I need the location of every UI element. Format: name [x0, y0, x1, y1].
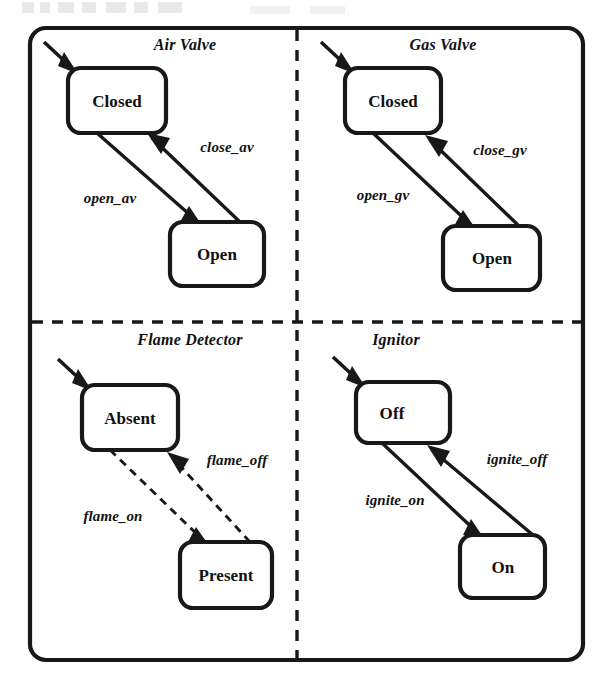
statechart-diagram: Air Valve Closed Open open_av	[0, 0, 615, 683]
state-label-flame-absent: Absent	[104, 409, 156, 428]
event-label-flame-on: flame_on	[83, 508, 142, 524]
state-label-gas-closed: Closed	[368, 92, 418, 111]
region-title-flame-detector: Flame Detector	[136, 331, 243, 348]
event-label-close-gv: close_gv	[473, 142, 527, 158]
event-label-close-av: close_av	[200, 139, 254, 155]
state-label-air-open: Open	[197, 245, 238, 264]
state-label-ignitor-on: On	[492, 558, 515, 577]
event-label-open-gv: open_gv	[357, 187, 410, 203]
region-title-ignitor: Ignitor	[371, 331, 420, 349]
region-title-gas-valve: Gas Valve	[409, 36, 476, 53]
event-label-ignite-on: ignite_on	[365, 492, 424, 508]
event-label-flame-off: flame_off	[207, 452, 270, 468]
event-label-open-av: open_av	[84, 190, 137, 206]
state-label-air-closed: Closed	[92, 92, 142, 111]
state-label-gas-open: Open	[472, 249, 513, 268]
state-label-ignitor-off: Off	[380, 404, 405, 423]
state-label-flame-present: Present	[198, 566, 253, 585]
event-label-ignite-off: ignite_off	[487, 451, 550, 467]
statechart-canvas: Air Valve Closed Open open_av	[0, 0, 615, 683]
region-title-air-valve: Air Valve	[153, 36, 217, 53]
